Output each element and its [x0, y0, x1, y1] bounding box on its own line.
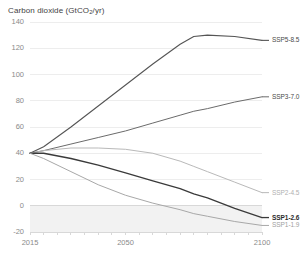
negative-value-band	[30, 206, 262, 232]
gridlines	[30, 22, 262, 232]
series-label-ssp1-1.9: SSP1-1.9	[272, 221, 299, 228]
y-tick-label: 80	[2, 96, 24, 105]
series-label-ssp2-4.5: SSP2-4.5	[272, 189, 299, 196]
y-tick-label: 120	[2, 43, 24, 52]
series-lines	[30, 35, 269, 225]
x-tick-label: 2050	[106, 238, 146, 247]
y-tick-label: 40	[2, 148, 24, 157]
y-tick-label: 100	[2, 70, 24, 79]
y-tick-label: -20	[2, 227, 24, 236]
series-label-ssp3-7.0: SSP3-7.0	[272, 93, 299, 100]
series-label-ssp1-2.6: SSP1-2.6	[272, 214, 299, 221]
x-tick-label: 2015	[10, 238, 50, 247]
chart-container: Carbon dioxide (GtCO2/yr) -2002040608010…	[0, 0, 307, 256]
series-line-ssp3-7.0	[30, 97, 262, 153]
series-line-ssp5-8.5	[30, 35, 262, 153]
y-tick-label: 20	[2, 175, 24, 184]
x-tick-label: 2100	[242, 238, 282, 247]
series-line-ssp2-4.5	[30, 148, 262, 193]
y-tick-label: 60	[2, 122, 24, 131]
series-label-ssp5-8.5: SSP5-8.5	[272, 36, 299, 43]
chart-plot-area	[0, 0, 307, 256]
y-tick-label: 140	[2, 17, 24, 26]
y-tick-label: 0	[2, 201, 24, 210]
axis-ticks	[30, 232, 262, 235]
